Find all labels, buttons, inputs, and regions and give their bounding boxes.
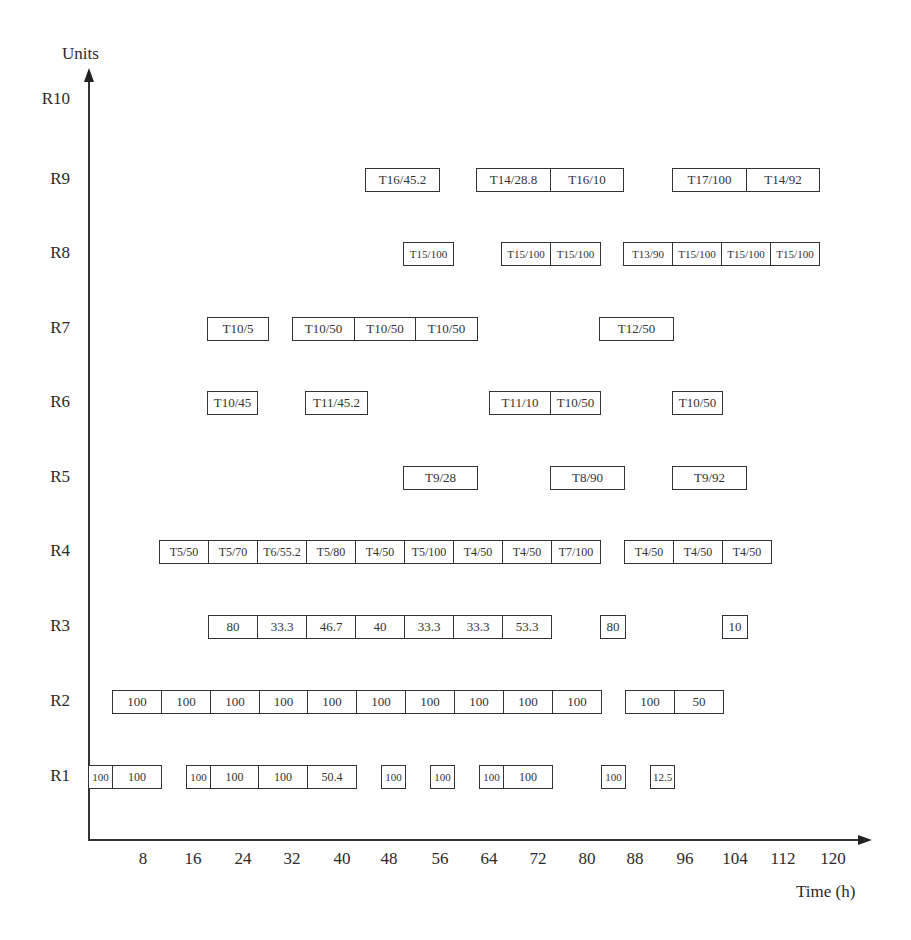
task-box-r7: T10/50 [292, 317, 355, 341]
x-tick-label: 16 [173, 849, 213, 869]
x-tick-label: 8 [123, 849, 163, 869]
task-box-r4: T6/55.2 [257, 540, 307, 564]
task-box-r2: 100 [503, 690, 553, 714]
row-label-r2: R2 [30, 691, 70, 711]
task-box-r8: T15/100 [550, 242, 601, 266]
task-box-r8: T15/100 [672, 242, 722, 266]
task-box-r4: T4/50 [355, 540, 405, 564]
task-box-r2: 100 [356, 690, 406, 714]
gantt-chart: Units Time (h) R1R2R3R4R5R6R7R8R9R10 816… [0, 0, 911, 940]
task-box-r5: T8/90 [550, 466, 625, 490]
task-box-r8: T15/100 [770, 242, 820, 266]
row-label-r5: R5 [30, 467, 70, 487]
task-box-r6: T10/50 [550, 391, 601, 415]
task-box-r1: 100 [381, 765, 406, 789]
task-box-r9: T17/100 [672, 168, 747, 192]
task-box-r1: 100 [479, 765, 504, 789]
row-label-r4: R4 [30, 541, 70, 561]
task-box-r4: T4/50 [453, 540, 503, 564]
task-box-r6: T10/50 [672, 391, 723, 415]
task-box-r3: 40 [355, 615, 405, 639]
x-tick-label: 56 [420, 849, 460, 869]
task-box-r9: T14/92 [746, 168, 820, 192]
task-box-r1: 100 [258, 765, 308, 789]
task-box-r9: T16/10 [550, 168, 624, 192]
task-box-r8: T15/100 [403, 242, 454, 266]
x-axis-line [88, 839, 862, 841]
x-tick-label: 80 [567, 849, 607, 869]
task-box-r1: 100 [601, 765, 626, 789]
y-axis-title: Units [62, 44, 99, 64]
task-box-r2: 100 [625, 690, 675, 714]
task-box-r3: 10 [722, 615, 748, 639]
x-tick-label: 48 [369, 849, 409, 869]
task-box-r2: 100 [112, 690, 162, 714]
task-box-r3: 33.3 [404, 615, 454, 639]
task-box-r2: 50 [674, 690, 724, 714]
task-box-r1: 100 [88, 765, 113, 789]
x-tick-label: 24 [223, 849, 263, 869]
task-box-r1: 100 [186, 765, 211, 789]
task-box-r4: T4/50 [673, 540, 723, 564]
y-axis-line [88, 78, 90, 841]
row-label-r7: R7 [30, 318, 70, 338]
task-box-r6: T11/10 [489, 391, 551, 415]
task-box-r3: 80 [208, 615, 258, 639]
row-label-r3: R3 [30, 616, 70, 636]
task-box-r2: 100 [405, 690, 455, 714]
row-label-r10: R10 [30, 89, 70, 109]
task-box-r1: 12.5 [650, 765, 675, 789]
task-box-r9: T16/45.2 [365, 168, 440, 192]
task-box-r4: T4/50 [502, 540, 552, 564]
task-box-r2: 100 [259, 690, 308, 714]
task-box-r5: T9/92 [672, 466, 747, 490]
x-tick-label: 72 [518, 849, 558, 869]
task-box-r6: T11/45.2 [305, 391, 368, 415]
task-box-r2: 100 [210, 690, 260, 714]
row-label-r8: R8 [30, 243, 70, 263]
task-box-r4: T4/50 [624, 540, 674, 564]
x-tick-label: 88 [615, 849, 655, 869]
task-box-r4: T4/50 [722, 540, 772, 564]
task-box-r2: 100 [552, 690, 602, 714]
task-box-r2: 100 [307, 690, 357, 714]
task-box-r2: 100 [454, 690, 504, 714]
row-label-r1: R1 [30, 766, 70, 786]
task-box-r8: T15/100 [721, 242, 771, 266]
task-box-r2: 100 [161, 690, 211, 714]
task-box-r7: T12/50 [599, 317, 674, 341]
task-box-r4: T5/100 [404, 540, 454, 564]
task-box-r4: T5/50 [159, 540, 209, 564]
x-tick-label: 40 [322, 849, 362, 869]
task-box-r7: T10/5 [207, 317, 269, 341]
task-box-r3: 33.3 [257, 615, 307, 639]
task-box-r3: 46.7 [306, 615, 356, 639]
x-tick-label: 112 [763, 849, 803, 869]
x-tick-label: 96 [665, 849, 705, 869]
task-box-r7: T10/50 [354, 317, 416, 341]
y-axis-arrow-icon [82, 68, 96, 82]
task-box-r7: T10/50 [415, 317, 478, 341]
task-box-r1: 100 [112, 765, 162, 789]
task-box-r4: T7/100 [551, 540, 601, 564]
task-box-r3: 53.3 [502, 615, 552, 639]
task-box-r5: T9/28 [403, 466, 478, 490]
row-label-r6: R6 [30, 392, 70, 412]
task-box-r4: T5/80 [306, 540, 356, 564]
task-box-r1: 50.4 [307, 765, 357, 789]
x-axis-arrow-icon [858, 833, 872, 847]
task-box-r1: 100 [430, 765, 455, 789]
x-tick-label: 120 [813, 849, 853, 869]
task-box-r6: T10/45 [207, 391, 258, 415]
x-tick-label: 32 [272, 849, 312, 869]
task-box-r3: 80 [600, 615, 626, 639]
task-box-r1: 100 [210, 765, 259, 789]
x-tick-label: 64 [469, 849, 509, 869]
x-axis-title: Time (h) [796, 882, 855, 902]
task-box-r8: T13/90 [623, 242, 673, 266]
task-box-r9: T14/28.8 [476, 168, 551, 192]
x-tick-label: 104 [715, 849, 755, 869]
task-box-r8: T15/100 [501, 242, 551, 266]
row-label-r9: R9 [30, 169, 70, 189]
task-box-r3: 33.3 [453, 615, 503, 639]
